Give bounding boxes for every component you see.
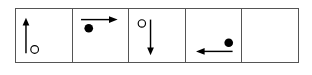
up-arrow-open-circle-icon — [16, 9, 72, 62]
cell-1 — [16, 9, 73, 62]
right-arrow-filled-circle-icon — [73, 9, 129, 62]
down-arrow-open-circle-icon — [129, 9, 185, 62]
cell-2 — [73, 9, 130, 62]
cell-5-empty — [242, 9, 298, 62]
sequence-grid — [15, 8, 299, 63]
left-arrow-filled-circle-icon — [186, 9, 242, 62]
cell-4 — [186, 9, 243, 62]
cell-3 — [129, 9, 186, 62]
